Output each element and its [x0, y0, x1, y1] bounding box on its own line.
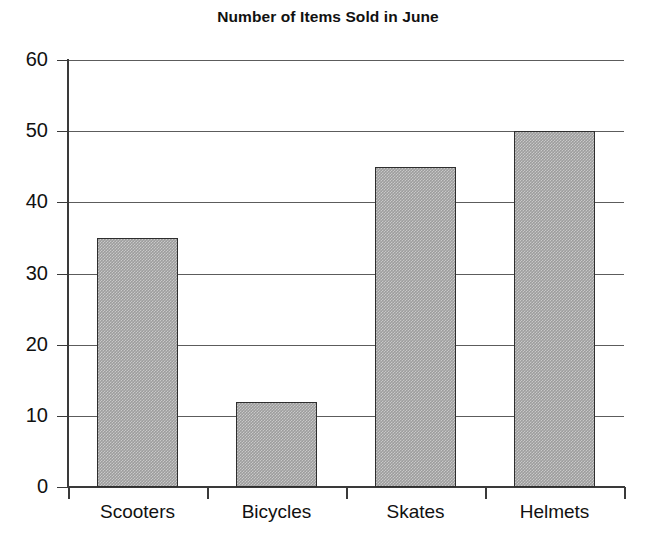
bar	[375, 167, 456, 487]
y-axis-label: 50	[4, 120, 48, 140]
bars-layer	[68, 60, 624, 487]
x-axis-tick	[346, 487, 348, 499]
y-axis-tick	[57, 274, 68, 275]
x-axis-label: Scooters	[68, 502, 207, 523]
y-axis-label: 0	[4, 476, 48, 496]
bar	[236, 402, 317, 487]
y-axis-label: 30	[4, 263, 48, 283]
y-axis-tick	[57, 131, 68, 132]
y-axis-label: 10	[4, 405, 48, 425]
y-axis-tick	[57, 416, 68, 417]
bar-chart: Number of Items Sold in June 01020304050…	[0, 0, 656, 542]
chart-title: Number of Items Sold in June	[0, 8, 656, 26]
x-axis-tick	[207, 487, 209, 499]
x-axis-tick	[68, 487, 70, 499]
x-axis-label: Helmets	[485, 502, 624, 523]
y-axis-tick	[57, 60, 68, 61]
x-axis-tick	[485, 487, 487, 499]
y-axis-label: 20	[4, 334, 48, 354]
x-axis-label: Bicycles	[207, 502, 346, 523]
x-axis-tick	[624, 487, 626, 499]
y-axis-tick	[57, 202, 68, 203]
y-axis-label: 60	[4, 49, 48, 69]
x-axis-label: Skates	[346, 502, 485, 523]
y-axis-tick	[57, 487, 68, 488]
y-axis-tick	[57, 345, 68, 346]
bar	[514, 131, 595, 487]
y-axis-label: 40	[4, 191, 48, 211]
bar	[97, 238, 178, 487]
